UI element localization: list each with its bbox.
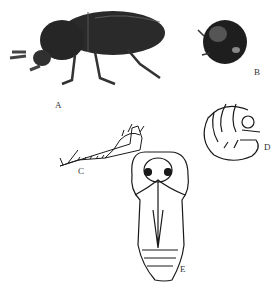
- leg-detail: [60, 124, 144, 166]
- adult-beetle-front: [198, 20, 247, 64]
- panel-label-c: C: [78, 166, 84, 176]
- pupa: [132, 152, 189, 281]
- panel-label-e: E: [180, 264, 186, 274]
- adult-beetle-lateral: [10, 11, 165, 84]
- beetle-life-stages-illustration: [0, 0, 274, 291]
- panel-label-b: B: [254, 67, 260, 77]
- panel-label-a: A: [55, 100, 62, 110]
- larva: [204, 104, 260, 160]
- panel-label-d: D: [264, 142, 271, 152]
